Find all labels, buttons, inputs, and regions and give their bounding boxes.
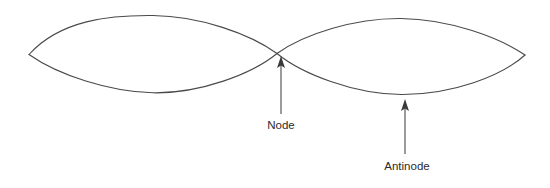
antinode-callout: Antinode [384, 99, 429, 172]
wave-lower-envelope-curve [29, 54, 525, 95]
wave-upper-envelope-curve [29, 15, 525, 55]
node-label: Node [267, 119, 295, 131]
standing-wave-diagram: Node Antinode [0, 0, 550, 188]
wave-illustration: Node Antinode [0, 0, 550, 188]
antinode-label: Antinode [384, 160, 429, 172]
node-callout: Node [267, 56, 295, 131]
